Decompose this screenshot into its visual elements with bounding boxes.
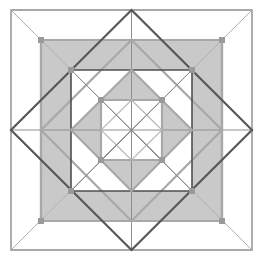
vertex-marker (38, 218, 44, 224)
geometric-figure-canvas (0, 0, 263, 258)
vertex-marker (189, 67, 195, 73)
vertex-marker (38, 37, 44, 43)
vertex-marker (98, 97, 104, 103)
vertex-marker (159, 97, 165, 103)
vertex-marker (68, 188, 74, 194)
vertex-marker (98, 157, 104, 163)
geometric-figure-svg (0, 0, 263, 258)
vertex-marker (189, 188, 195, 194)
vertex-marker (219, 37, 225, 43)
vertex-marker (219, 218, 225, 224)
vertex-marker (159, 157, 165, 163)
vertex-marker (68, 67, 74, 73)
